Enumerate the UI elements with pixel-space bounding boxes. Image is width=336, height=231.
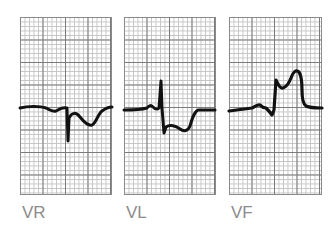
lead-label-vf: VF — [231, 203, 253, 223]
lead-label-vl: VL — [126, 203, 147, 223]
ecg-panel-vf — [229, 17, 322, 195]
ecg-panel-vl — [124, 17, 216, 195]
lead-label-vr: VR — [22, 203, 46, 223]
ecg-panel-vr — [20, 17, 112, 195]
